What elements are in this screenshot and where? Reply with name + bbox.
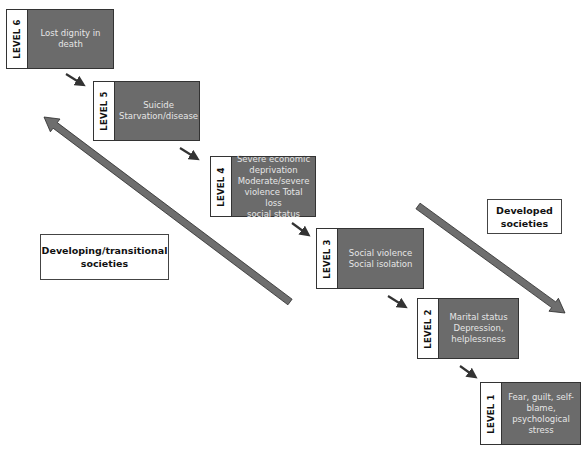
level-description: Severe economic deprivation Moderate/sev… [232, 157, 315, 216]
level-label: LEVEL 3 [322, 239, 332, 278]
level-box-5: LEVEL 5Suicide Starvation/disease [93, 81, 200, 141]
level-label-strip: LEVEL 3 [317, 229, 338, 288]
level-label: LEVEL 1 [486, 394, 496, 433]
connector-arrow-icon [180, 148, 196, 158]
connector-arrow-icon [460, 366, 474, 376]
level-description: Social violence Social isolation [338, 229, 423, 288]
level-box-3: LEVEL 3Social violence Social isolation [316, 228, 424, 289]
level-label: LEVEL 2 [423, 309, 433, 348]
level-description: Marital status Depression, helplessness [439, 299, 518, 358]
connector-arrow-icon [388, 296, 404, 306]
developed-societies-label: Developed societies [487, 199, 562, 234]
level-description: Fear, guilt, self- blame, psychological … [502, 383, 580, 444]
level-label-strip: LEVEL 4 [211, 157, 232, 216]
level-box-4: LEVEL 4Severe economic deprivation Moder… [210, 156, 316, 217]
connector-arrow-icon [66, 74, 82, 84]
developing-societies-label: Developing/transitional societies [40, 234, 169, 280]
level-label: LEVEL 6 [12, 19, 22, 58]
level-description: Suicide Starvation/disease [115, 82, 202, 140]
level-label-strip: LEVEL 6 [7, 10, 28, 68]
level-label: LEVEL 4 [216, 167, 226, 206]
level-label-strip: LEVEL 1 [481, 383, 502, 444]
level-box-6: LEVEL 6Lost dignity in death [6, 9, 114, 69]
level-box-2: LEVEL 2Marital status Depression, helple… [417, 298, 519, 359]
level-label-strip: LEVEL 5 [94, 82, 115, 140]
level-label-strip: LEVEL 2 [418, 299, 439, 358]
level-description: Lost dignity in death [28, 10, 113, 68]
level-label: LEVEL 5 [99, 91, 109, 130]
level-box-1: LEVEL 1Fear, guilt, self- blame, psychol… [480, 382, 581, 445]
connector-arrow-icon [292, 223, 307, 234]
